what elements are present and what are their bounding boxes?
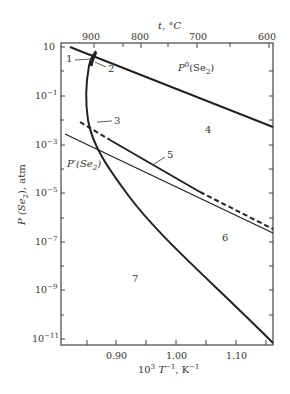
p-prime-se2-label: P′(Se2) <box>67 158 101 169</box>
label-6: 6 <box>222 232 228 243</box>
x-tick-1.00: 1.00 <box>166 350 187 361</box>
leader-2 <box>95 62 106 67</box>
leader-3 <box>97 121 112 122</box>
label-3: 3 <box>114 115 120 126</box>
y-tick-1: 10 <box>43 41 55 52</box>
x-tick-0.90: 0.90 <box>106 350 127 361</box>
label-2: 2 <box>108 63 114 74</box>
x-axis-title: 103 T−1, K−1 <box>138 364 200 375</box>
series-5-dashed-left <box>80 122 110 140</box>
leader-5 <box>154 157 165 164</box>
p0-se2-label: P0(Se2) <box>178 62 214 73</box>
label-1: 1 <box>66 53 72 64</box>
leader-1 <box>75 59 92 60</box>
y-tick-m7: 10−7 <box>35 236 57 247</box>
label-7: 7 <box>132 273 138 284</box>
top-tick-900: 900 <box>82 31 100 42</box>
y-tick-m11: 10−11 <box>32 333 59 344</box>
label-5: 5 <box>167 149 173 160</box>
plot-frame <box>61 43 273 345</box>
series-5-solid <box>110 140 200 192</box>
top-axis-ticks <box>94 43 269 48</box>
y-tick-m9: 10−9 <box>35 284 57 295</box>
x-tick-1.10: 1.10 <box>226 350 247 361</box>
label-4: 4 <box>205 124 211 135</box>
top-tick-700: 700 <box>189 31 207 42</box>
y-axis-title: P (Se2), atm <box>16 164 27 225</box>
top-axis-title: t, °C <box>158 20 181 31</box>
y-tick-m3: 10−3 <box>35 139 57 150</box>
series-5-dashed-right <box>200 192 273 229</box>
y-tick-m1: 10−1 <box>35 90 57 101</box>
series-curve-3 <box>86 51 273 343</box>
series-p0-se2 <box>70 47 273 127</box>
top-tick-600: 600 <box>258 31 276 42</box>
y-tick-m5: 10−5 <box>35 187 57 198</box>
right-axis-ticks <box>269 71 273 315</box>
bottom-axis-ticks <box>87 340 266 345</box>
top-tick-800: 800 <box>131 31 149 42</box>
